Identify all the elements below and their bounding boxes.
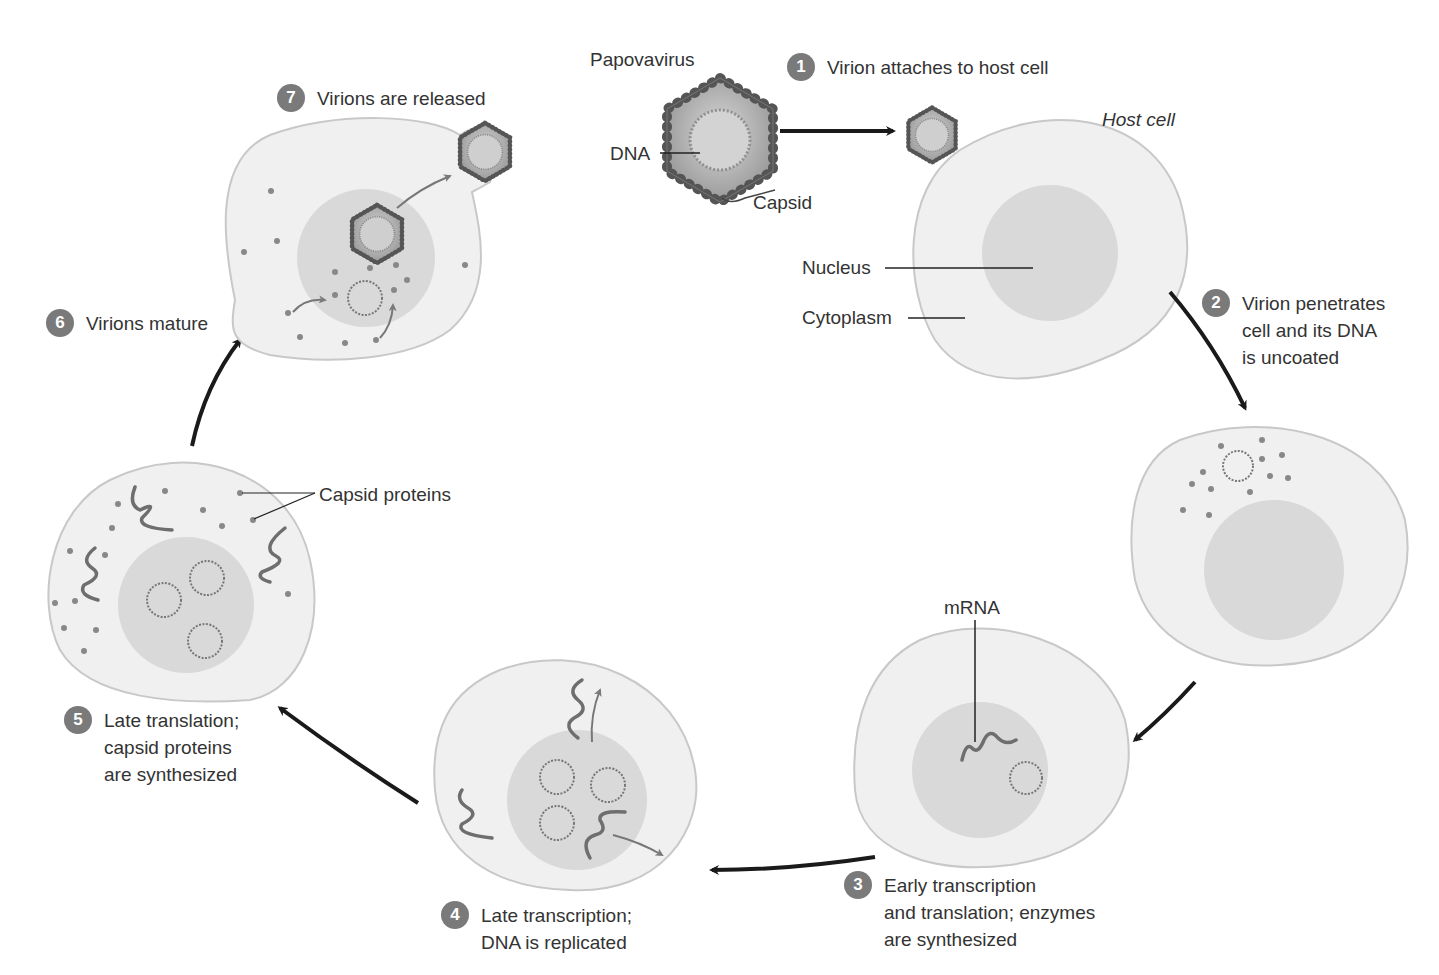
step-6: 6 Virions mature [46, 310, 208, 337]
virus-cycle-diagram [0, 0, 1439, 975]
dna-label: DNA [610, 140, 650, 167]
papovavirus-label: Papovavirus [590, 46, 695, 73]
maturing-virion [352, 205, 402, 263]
step-7: 7 Virions are released [277, 85, 486, 112]
step-number-badge: 5 [64, 706, 92, 734]
nucleus-label: Nucleus [802, 254, 871, 281]
step-2: 2 Virion penetrates cell and its DNA is … [1202, 290, 1385, 371]
step-number-badge: 1 [787, 53, 815, 81]
cell-step-3 [854, 620, 1128, 867]
step-text: Virions mature [86, 310, 208, 337]
host-cell-label: Host cell [1102, 106, 1175, 133]
step-number-badge: 4 [441, 901, 469, 929]
step-text: Virion attaches to host cell [827, 54, 1048, 81]
step-5: 5 Late translation; capsid proteins are … [64, 707, 239, 788]
capsid-proteins-label: Capsid proteins [319, 481, 451, 508]
step-text: Virions are released [317, 85, 486, 112]
step-number-badge: 3 [844, 871, 872, 899]
cell-step-4 [434, 660, 696, 890]
step-number-badge: 7 [277, 84, 305, 112]
step-text: Late transcription; DNA is replicated [481, 902, 632, 956]
cytoplasm-label: Cytoplasm [802, 304, 892, 331]
step-text: Early transcription and translation; enz… [884, 872, 1095, 953]
mrna-label: mRNA [944, 594, 1000, 621]
step-number-badge: 2 [1202, 289, 1230, 317]
papovavirus-illustration [667, 78, 773, 202]
step-4: 4 Late transcription; DNA is replicated [441, 902, 632, 956]
step-1: 1 Virion attaches to host cell [787, 54, 1048, 81]
step-text: Late translation; capsid proteins are sy… [104, 707, 239, 788]
cell-step-5 [48, 463, 315, 702]
cell-step-2 [1131, 427, 1407, 666]
attached-virion [908, 108, 955, 163]
capsid-label: Capsid [753, 189, 812, 216]
step-3: 3 Early transcription and translation; e… [844, 872, 1095, 953]
step-text: Virion penetrates cell and its DNA is un… [1242, 290, 1385, 371]
step-number-badge: 6 [46, 309, 74, 337]
released-virion [460, 123, 510, 181]
